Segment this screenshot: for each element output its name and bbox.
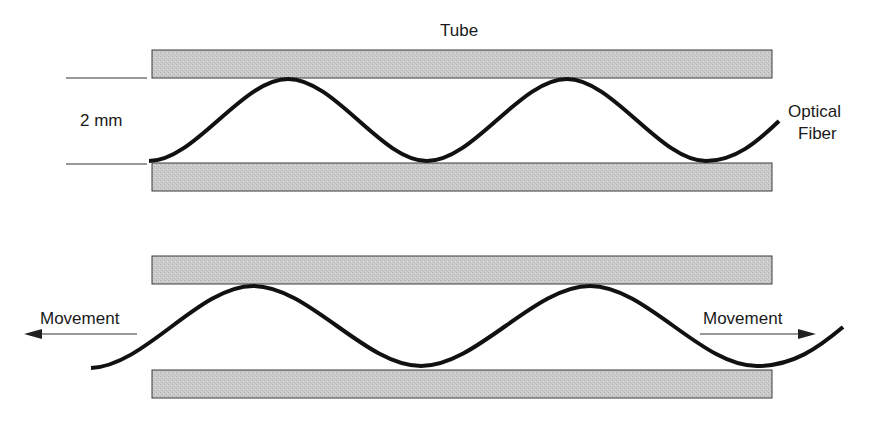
- top-optical-fiber: [149, 79, 779, 161]
- right-movement-arrow: [700, 329, 816, 339]
- bottom-tube-lower-wall: [152, 370, 772, 398]
- arrowhead-left-icon: [24, 329, 42, 339]
- optical-fiber-label-line1: Optical: [788, 101, 841, 123]
- top-tube-upper-wall: [152, 50, 772, 78]
- top-tube-lower-wall: [152, 163, 772, 191]
- gap-label: 2 mm: [80, 112, 123, 129]
- tube-label: Tube: [440, 22, 478, 39]
- left-movement-arrow: [24, 329, 137, 339]
- microbend-diagram: [0, 0, 888, 421]
- right-movement-label: Movement: [703, 310, 782, 327]
- optical-fiber-label-line2: Fiber: [788, 123, 841, 145]
- optical-fiber-label: Optical Fiber: [788, 101, 841, 145]
- arrowhead-right-icon: [798, 329, 816, 339]
- top-panel: [66, 50, 779, 191]
- bottom-tube-upper-wall: [152, 256, 772, 284]
- left-movement-label: Movement: [40, 310, 119, 327]
